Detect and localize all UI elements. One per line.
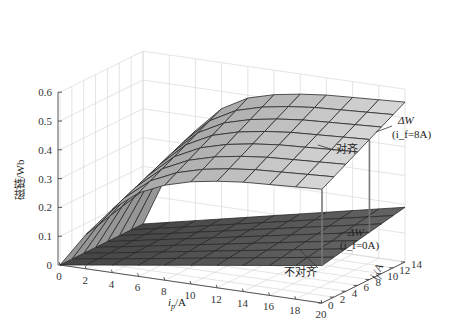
dw8-subnote: (i_f=8A): [392, 128, 432, 141]
y-tick-label: 2: [340, 293, 346, 305]
x-tick-label: 20: [316, 308, 328, 320]
z-tick-label: 0.6: [38, 86, 52, 98]
x-tick-label: 12: [211, 293, 222, 305]
unaligned-annotation: 不对齐: [284, 265, 317, 278]
surface-plot: 00.10.20.30.40.50.6024681012141618200246…: [0, 0, 454, 325]
x-tick-label: 8: [161, 285, 167, 297]
dw0-subnote: (i_f=0A): [340, 239, 380, 252]
x-tick-label: 2: [82, 274, 88, 286]
y-tick-label: 14: [411, 258, 423, 270]
aligned-annotation: 对齐: [336, 142, 358, 155]
x-axis-label: ip/A: [168, 296, 186, 311]
x-tick-label: 10: [185, 289, 197, 301]
y-tick-label: 4: [352, 287, 358, 299]
z-axis-label: 磁链/Wb: [13, 159, 26, 200]
z-tick-label: 0.3: [38, 173, 52, 185]
z-tick-label: 0.4: [38, 144, 52, 156]
y-tick-label: 0: [328, 299, 334, 311]
dw0-annotation: ΔW: [347, 226, 364, 238]
x-tick-label: 16: [263, 300, 275, 312]
z-tick-label: 0: [47, 259, 53, 271]
y-tick-label: 10: [387, 270, 399, 282]
dw8-annotation: ΔW: [397, 114, 414, 126]
x-tick-label: 14: [237, 297, 249, 309]
x-tick-label: 0: [56, 270, 62, 282]
x-tick-label: 4: [109, 278, 115, 290]
z-tick-label: 0.2: [38, 201, 52, 213]
x-tick-label: 6: [135, 281, 141, 293]
z-tick-label: 0.1: [38, 230, 52, 242]
y-tick-label: 6: [364, 281, 370, 293]
x-tick-label: 18: [289, 304, 301, 316]
z-tick-label: 0.5: [38, 115, 52, 127]
y-tick-label: 12: [399, 264, 410, 276]
